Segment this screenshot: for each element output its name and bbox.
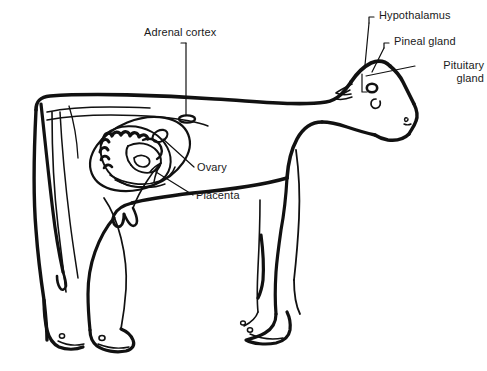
cow-forelegs xyxy=(241,150,300,344)
leader-lines xyxy=(156,17,415,195)
label-placenta: Placenta xyxy=(196,189,240,202)
label-pineal-gland: Pineal gland xyxy=(394,35,456,48)
cow-tail xyxy=(41,104,66,290)
leader-hypothalamus xyxy=(365,23,369,65)
cow-hindlegs xyxy=(44,112,134,352)
label-ovary: Ovary xyxy=(197,161,227,174)
leader-placenta xyxy=(156,172,193,195)
anatomy-diagram: Adrenal cortex Hypothalamus Pineal gland… xyxy=(0,0,487,371)
leader-pineal-bracket xyxy=(384,43,389,48)
uterus-group xyxy=(79,103,201,205)
leader-hypothalamus-bracket xyxy=(369,17,374,23)
label-hypothalamus: Hypothalamus xyxy=(379,9,451,22)
cow-line-drawing xyxy=(0,0,487,371)
label-adrenal-cortex: Adrenal cortex xyxy=(144,26,216,39)
label-pituitary-gland-line2: gland xyxy=(398,72,484,85)
label-pituitary-gland-line1: Pituitary xyxy=(398,59,484,72)
